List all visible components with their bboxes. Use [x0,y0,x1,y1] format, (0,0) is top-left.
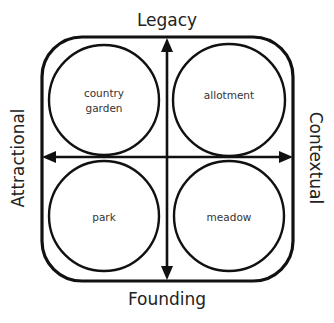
quadrant-label-top-right: allotment [204,89,254,101]
axis-label-bottom: Founding [128,289,206,309]
quadrant-label-bottom-right: meadow [207,211,252,223]
arrow-up-icon [161,38,173,52]
axis-label-top: Legacy [137,10,197,30]
quadrant-diagram: Legacy Founding Attractional Contextual … [0,0,334,323]
quadrant-label-top-left-line1: country [84,87,124,99]
arrow-down-icon [161,266,173,280]
arrow-right-icon [279,151,293,163]
arrow-left-icon [42,151,56,163]
circle-top-left [49,45,159,155]
axis-label-right: Contextual [306,112,326,205]
axis-label-left: Attractional [8,108,28,207]
quadrant-label-top-left-line2: garden [85,102,122,114]
quadrant-label-bottom-left: park [92,211,116,223]
